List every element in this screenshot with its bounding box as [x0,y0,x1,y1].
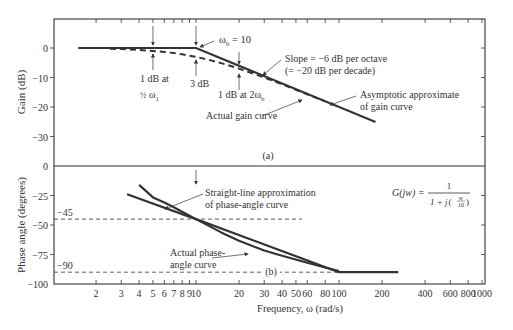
annotation-actual-gain: Actual gain curve [206,110,278,121]
ref-90-label: −90 [57,260,73,271]
svg-text:60: 60 [302,288,312,299]
annotation-asym-1: Asymptotic approximate [360,89,460,100]
annotation-wb: ωb = 10 [219,34,251,48]
svg-text:5: 5 [150,288,155,299]
phase-ylabel: Phase angle (degrees) [15,177,28,273]
annotation-3db: 3 dB [190,78,210,89]
svg-text:600: 600 [443,288,458,299]
svg-text:40: 40 [277,288,287,299]
svg-text:1 + j(: 1 + j( [430,197,452,207]
ref-45-label: −45 [57,207,73,218]
svg-text:30: 30 [259,288,269,299]
gain-tick-10: −10 [32,73,48,84]
svg-text:20: 20 [234,288,244,299]
phase-tick-100: −100 [27,279,48,290]
gain-ylabel: Gain (dB) [15,70,28,115]
annotation-straight-1: Straight-line approximation [205,187,316,198]
bode-plot-figure: Gain (dB) Phase angle (degrees) 0 −10 −2… [0,0,513,330]
annotation-slope-2: (= −20 dB per decade) [285,65,375,77]
x-tick-labels: 2345678910203040506080100200400600800100… [94,288,492,299]
phase-tick-25: −25 [32,191,48,202]
svg-text:2: 2 [94,288,99,299]
svg-text:50: 50 [291,288,301,299]
annotation-slope-1: Slope = −6 dB per octave [285,53,388,64]
gain-tick-20: −20 [32,102,48,113]
svg-text:4: 4 [137,288,142,299]
annotation-asym-2: of gain curve [360,101,413,112]
svg-text:10: 10 [191,288,201,299]
svg-text:7: 7 [171,288,176,299]
svg-text:1: 1 [447,181,452,191]
svg-text:10: 10 [458,202,464,208]
svg-text:8: 8 [180,288,185,299]
annotation-half-w1: ½ω1 [140,89,160,103]
divider-zero-label: 0 [43,161,48,172]
annotation-actual-phase-2: angle curve [170,259,217,270]
svg-text:G(jw) =: G(jw) = [392,187,425,199]
panel-label-b: (b) [265,266,277,278]
phase-tick-50: −50 [32,220,48,231]
svg-text:3: 3 [119,288,124,299]
svg-text:100: 100 [332,288,347,299]
svg-text:): ) [466,197,469,207]
annotation-1db-half: 1 dB at [140,73,169,84]
annotation-actual-phase-1: Actual phase- [170,247,225,258]
svg-text:6: 6 [162,288,167,299]
annotation-straight-2: of phase-angle curve [205,199,289,210]
svg-text:80: 80 [320,288,330,299]
phase-tick-75: −75 [32,250,48,261]
svg-text:400: 400 [418,288,433,299]
gain-tick-30: −30 [32,132,48,143]
transfer-function-formula: G(jw) = 1 1 + j( w 10 ) [392,181,470,208]
data-series [78,48,398,272]
annotation-1db-2wb: 1 dB at 2ωb [218,89,265,103]
gain-tick-0: 0 [43,43,48,54]
x-axis-label: Frequency, ω (rad/s) [257,303,343,315]
svg-text:1000: 1000 [472,288,492,299]
panel-label-a: (a) [262,150,273,162]
svg-text:w: w [459,195,464,201]
svg-text:200: 200 [375,288,390,299]
